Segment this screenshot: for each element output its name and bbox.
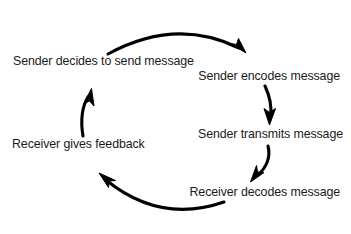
arrow-sender-transmits-to-receiver-decodes [251, 146, 269, 182]
node-label-sender-transmits: Sender transmits message [198, 127, 343, 141]
arrow-sender-encodes-to-sender-transmits [264, 86, 276, 125]
communication-cycle-diagram: Sender decides to send message Sender en… [0, 0, 351, 234]
node-label-receiver-feedback: Receiver gives feedback [12, 137, 145, 151]
arrow-receiver-feedback-to-sender-decides [82, 89, 94, 137]
node-label-sender-decides: Sender decides to send message [13, 54, 194, 68]
node-label-sender-encodes: Sender encodes message [198, 69, 340, 83]
arrow-sender-decides-to-sender-encodes [108, 34, 246, 54]
node-label-receiver-decodes: Receiver decodes message [190, 185, 341, 199]
